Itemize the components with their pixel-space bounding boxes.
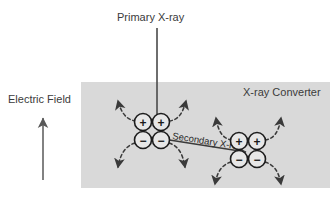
negative-charge: −	[135, 132, 152, 149]
charge-sign: +	[235, 135, 242, 149]
charge-sign: −	[235, 153, 242, 167]
charge-sign: +	[139, 116, 146, 130]
charge-sign: +	[253, 135, 260, 149]
positive-charge: +	[231, 133, 248, 150]
positive-charge: +	[135, 114, 152, 131]
positive-charge: +	[249, 133, 266, 150]
converter-label: X-ray Converter	[243, 86, 321, 98]
positive-charge: +	[153, 114, 170, 131]
charge-sign: −	[139, 134, 146, 148]
primary-xray-label: Primary X-ray	[117, 11, 185, 23]
charge-sign: −	[157, 134, 164, 148]
negative-charge: −	[153, 132, 170, 149]
charge-sign: +	[157, 116, 164, 130]
diagram-canvas: X-ray Converter Primary X-ray Electric F…	[0, 0, 334, 203]
xray-converter-diagram: X-ray Converter Primary X-ray Electric F…	[0, 0, 334, 203]
charge-sign: −	[253, 153, 260, 167]
negative-charge: −	[249, 151, 266, 168]
negative-charge: −	[231, 151, 248, 168]
electric-field-label: Electric Field	[8, 93, 71, 105]
